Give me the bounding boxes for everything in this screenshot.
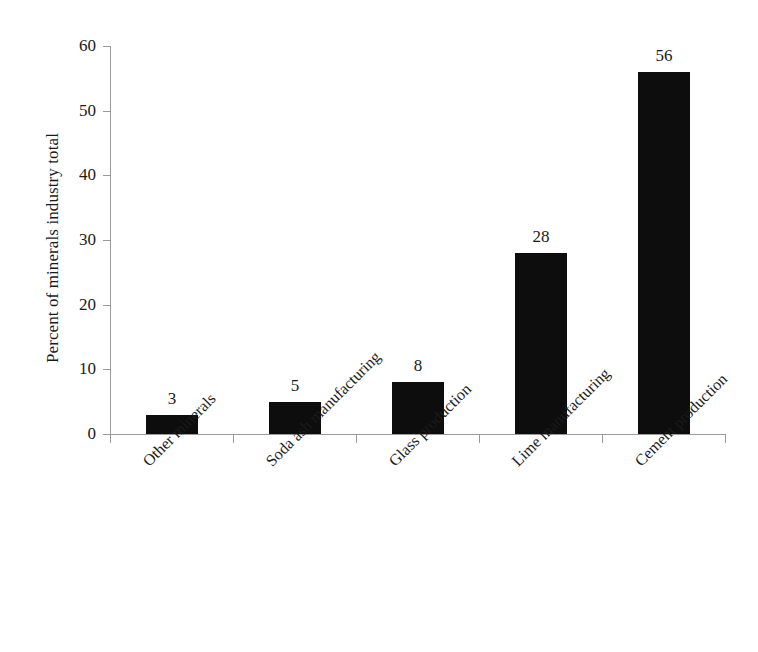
bar-chart-figure: Percent of minerals industry total 01020…	[0, 0, 758, 652]
x-axis-tick	[725, 434, 726, 443]
bar-value-label: 5	[265, 377, 325, 394]
bar-value-label: 56	[634, 47, 694, 64]
y-axis-tick-label: 30	[52, 231, 96, 248]
bar	[638, 72, 690, 434]
x-axis-tick	[110, 434, 111, 443]
x-axis-tick	[356, 434, 357, 443]
bar-value-label: 28	[511, 228, 571, 245]
x-axis-tick	[602, 434, 603, 443]
y-axis-tick-label: 60	[52, 37, 96, 54]
y-axis-tick	[103, 305, 111, 306]
y-axis-tick	[103, 175, 111, 176]
bar-value-label: 8	[388, 357, 448, 374]
y-axis-tick	[103, 369, 111, 370]
y-axis-tick-label: 0	[52, 425, 96, 442]
y-axis-tick-label: 20	[52, 296, 96, 313]
x-axis-tick	[479, 434, 480, 443]
y-axis-tick	[103, 111, 111, 112]
y-axis-tick	[103, 46, 111, 47]
y-axis-tick-label: 10	[52, 360, 96, 377]
y-axis-tick-label: 40	[52, 166, 96, 183]
y-axis-tick-label: 50	[52, 102, 96, 119]
y-axis-tick	[103, 240, 111, 241]
x-axis-tick	[233, 434, 234, 443]
